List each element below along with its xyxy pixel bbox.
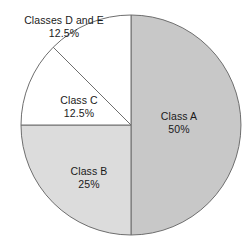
pie-label-classes-d-and-e-value: 12.5% — [2, 27, 126, 40]
pie-label-class-a: Class A 50% — [143, 110, 215, 135]
pie-label-classes-d-and-e-name: Classes D and E — [2, 14, 126, 27]
pie-label-class-b-name: Class B — [53, 165, 125, 178]
pie-label-class-a-value: 50% — [143, 123, 215, 136]
pie-label-class-b: Class B 25% — [53, 165, 125, 190]
pie-label-class-c-value: 12.5% — [34, 107, 124, 120]
pie-label-classes-d-and-e: Classes D and E 12.5% — [2, 14, 126, 39]
pie-chart: Classes D and E 12.5% Class C 12.5% Clas… — [0, 0, 248, 247]
pie-label-class-a-name: Class A — [143, 110, 215, 123]
pie-label-class-c: Class C 12.5% — [34, 94, 124, 119]
pie-label-class-b-value: 25% — [53, 178, 125, 191]
pie-label-class-c-name: Class C — [34, 94, 124, 107]
